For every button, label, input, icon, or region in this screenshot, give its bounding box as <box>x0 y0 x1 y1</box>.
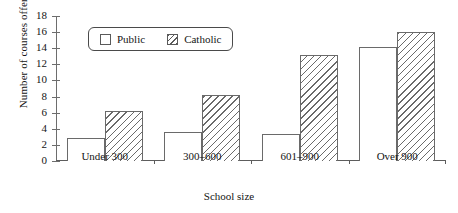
y-tick-label-12: 12 <box>36 56 47 71</box>
bar-catholic-3 <box>300 55 338 161</box>
y-tick-label-6: 6 <box>42 105 48 120</box>
x-axis-title: School size <box>0 190 458 202</box>
category-label-1: Under 300 <box>56 150 154 162</box>
y-axis-line <box>56 16 57 161</box>
legend-item-catholic: Catholic <box>167 33 221 45</box>
category-label-4: Over 900 <box>349 150 447 162</box>
category-label-2: 300–600 <box>154 150 252 162</box>
y-tick-label-18: 18 <box>36 8 47 23</box>
y-tick-4: 4 <box>52 129 60 130</box>
legend: Public Catholic <box>88 27 233 51</box>
y-tick-label-14: 14 <box>36 40 47 55</box>
y-tick-8: 8 <box>52 97 60 98</box>
y-axis-title: Number of courses offered <box>17 0 29 123</box>
y-tick-label-2: 2 <box>42 137 48 152</box>
y-tick-label-0: 0 <box>42 153 48 168</box>
category-label-3: 601–900 <box>251 150 349 162</box>
y-tick-label-10: 10 <box>36 72 47 87</box>
legend-item-public: Public <box>100 33 145 45</box>
y-tick-12: 12 <box>52 64 60 65</box>
bar-public-4 <box>359 47 397 161</box>
legend-label-public: Public <box>117 33 145 45</box>
y-tick-label-4: 4 <box>42 121 48 136</box>
legend-label-catholic: Catholic <box>184 33 221 45</box>
y-tick-10: 10 <box>52 80 60 81</box>
y-tick-label-16: 16 <box>36 24 47 39</box>
legend-swatch-public-icon <box>100 34 111 45</box>
y-tick-label-8: 8 <box>42 89 48 104</box>
bar-catholic-4 <box>397 32 435 161</box>
y-tick-2: 2 <box>52 145 60 146</box>
legend-swatch-catholic-icon <box>167 34 178 45</box>
y-tick-14: 14 <box>52 48 60 49</box>
y-tick-16: 16 <box>52 32 60 33</box>
bar-chart: Number of courses offered 02468101214161… <box>0 0 458 213</box>
y-tick-18: 18 <box>52 16 60 17</box>
y-tick-6: 6 <box>52 113 60 114</box>
